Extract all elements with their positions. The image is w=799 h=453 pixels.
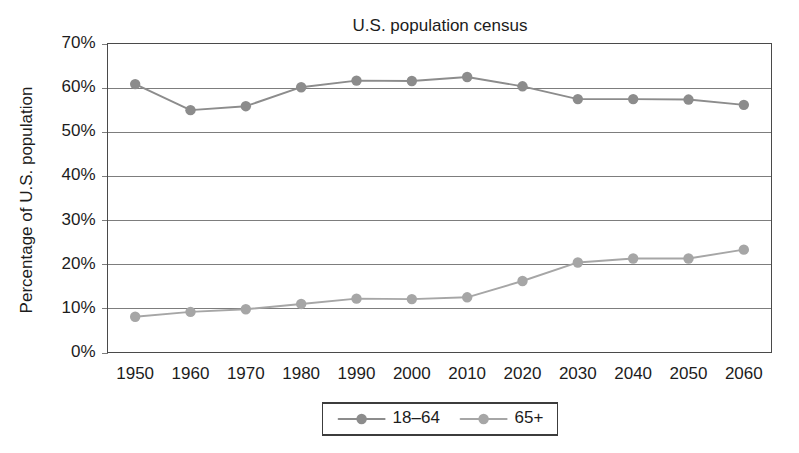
data-point <box>573 257 583 267</box>
x-axis-tick-label: 2020 <box>504 364 542 383</box>
x-axis-tick-label: 2050 <box>670 364 708 383</box>
data-point <box>185 105 195 115</box>
y-axis-tick-label: 60% <box>61 77 95 96</box>
data-point <box>130 312 140 322</box>
data-point <box>573 94 583 104</box>
x-axis-tick-label: 1990 <box>338 364 376 383</box>
data-point <box>351 75 361 85</box>
legend-marker <box>356 414 366 424</box>
x-axis-tick-label: 1980 <box>282 364 320 383</box>
data-point <box>407 76 417 86</box>
data-point <box>241 304 251 314</box>
data-point <box>351 293 361 303</box>
chart-figure: U.S. population census Percentage of U.S… <box>0 0 799 453</box>
data-point <box>739 244 749 254</box>
x-axis-tick-label: 2060 <box>725 364 763 383</box>
x-axis-tick-label: 1970 <box>227 364 265 383</box>
data-point <box>517 276 527 286</box>
chart-title: U.S. population census <box>353 16 528 35</box>
legend-label: 65+ <box>515 408 544 427</box>
y-axis-tick-label: 30% <box>61 210 95 229</box>
y-axis-title: Percentage of U.S. population <box>17 87 36 314</box>
y-axis-tick-label: 50% <box>61 121 95 140</box>
y-axis-tick-label: 10% <box>61 298 95 317</box>
data-point <box>296 299 306 309</box>
x-axis-tick-label: 1950 <box>116 364 154 383</box>
x-axis-tick-label: 2010 <box>448 364 486 383</box>
data-point <box>683 94 693 104</box>
data-point <box>462 292 472 302</box>
line-chart: U.S. population census Percentage of U.S… <box>0 0 799 453</box>
x-axis-tick-label: 2030 <box>559 364 597 383</box>
data-point <box>739 100 749 110</box>
data-point <box>628 253 638 263</box>
x-axis-tick-label: 2000 <box>393 364 431 383</box>
data-point <box>628 94 638 104</box>
data-point <box>462 72 472 82</box>
data-point <box>407 294 417 304</box>
y-axis-tick-label: 0% <box>71 342 96 361</box>
data-point <box>296 82 306 92</box>
y-axis-tick-label: 20% <box>61 254 95 273</box>
y-axis-tick-label: 40% <box>61 165 95 184</box>
x-axis-tick-label: 1960 <box>172 364 210 383</box>
data-point <box>683 253 693 263</box>
y-axis-tick-label: 70% <box>61 33 95 52</box>
chart-legend: 18–6465+ <box>323 403 558 435</box>
data-point <box>130 79 140 89</box>
x-axis-tick-label: 2040 <box>614 364 652 383</box>
legend-label: 18–64 <box>393 408 440 427</box>
chart-background <box>0 0 799 453</box>
legend-marker <box>478 414 488 424</box>
data-point <box>185 307 195 317</box>
data-point <box>241 101 251 111</box>
data-point <box>517 81 527 91</box>
